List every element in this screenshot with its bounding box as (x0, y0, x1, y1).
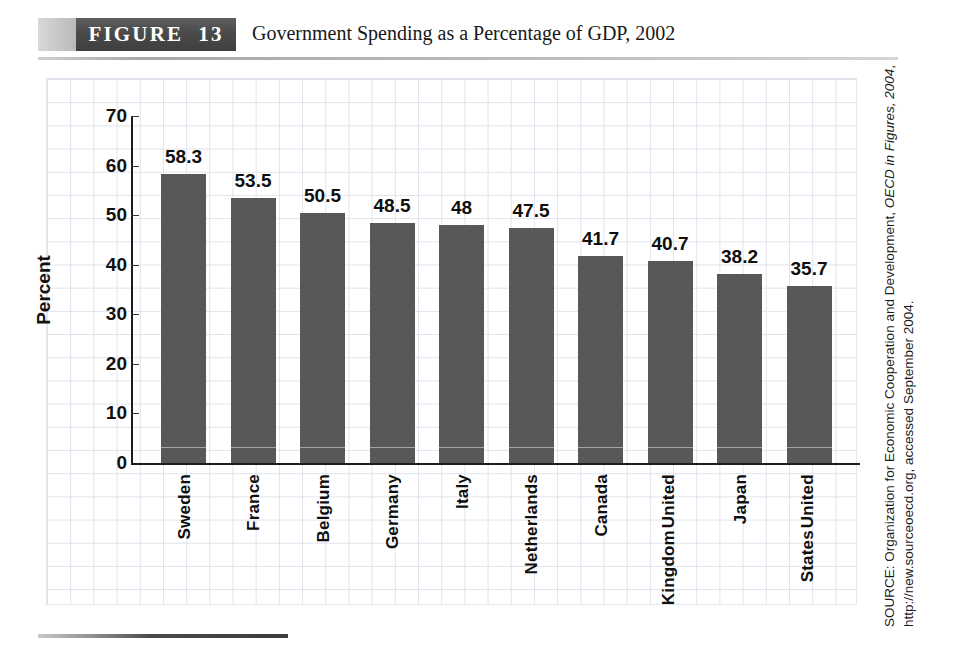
footer-divider (38, 634, 288, 638)
y-axis-tick-labels: 706050403020100 (83, 0, 127, 649)
figure-page: FIGURE 13 Government Spending as a Perce… (0, 0, 962, 649)
y-tick-label-60: 60 (83, 155, 127, 177)
bar-value-label: 35.7 (791, 258, 828, 280)
x-category-label-line: Kingdom (659, 530, 679, 605)
source-prefix: SOURCE: Organization for Economic Cooper… (882, 208, 897, 627)
x-category-label: Germany (383, 474, 403, 549)
bar (648, 261, 693, 463)
x-category-label-line: United (798, 474, 818, 528)
bar-value-label: 41.7 (582, 228, 619, 250)
bar-value-label: 48 (451, 197, 472, 219)
bar (231, 198, 276, 463)
bar-value-label: 40.7 (652, 233, 689, 255)
x-axis-line (131, 463, 860, 465)
y-tick-label-70: 70 (83, 105, 127, 127)
bars-container (131, 116, 857, 463)
header-divider (38, 57, 898, 60)
source-note: SOURCE: Organization for Economic Cooper… (881, 52, 953, 627)
y-tick-label-50: 50 (83, 204, 127, 226)
x-category-label: Canada (592, 474, 612, 537)
y-tick-label-10: 10 (83, 402, 127, 424)
bar-value-label: 38.2 (721, 246, 758, 268)
bar-value-label: 53.5 (235, 170, 272, 192)
y-tick-label-0: 0 (83, 452, 127, 474)
bar-value-label: 58.3 (165, 146, 202, 168)
x-category-label-line: States (798, 530, 818, 582)
y-tick-label-40: 40 (83, 254, 127, 276)
y-tick-label-20: 20 (83, 353, 127, 375)
x-category-label: UnitedKingdom (659, 474, 679, 605)
x-category-label: Netherlands (522, 474, 542, 574)
bar (439, 225, 484, 463)
bar (161, 174, 206, 463)
bar (787, 286, 832, 463)
x-category-label: Sweden (175, 474, 195, 539)
x-category-label: Italy (453, 474, 473, 509)
bar (717, 274, 762, 463)
bar (578, 256, 623, 463)
figure-header: FIGURE 13 Government Spending as a Perce… (38, 18, 898, 51)
source-italic-title: OECD in Figures, 2004 (882, 69, 897, 209)
bar-value-label: 47.5 (513, 200, 550, 222)
y-tick-label-30: 30 (83, 303, 127, 325)
x-category-label-line: United (659, 474, 679, 528)
x-category-label: Belgium (314, 474, 334, 542)
page-title: Government Spending as a Percentage of G… (252, 22, 675, 45)
bar-value-label: 50.5 (304, 185, 341, 207)
x-category-label: UnitedStates (798, 474, 818, 582)
y-axis-title: Percent (33, 255, 55, 325)
banner-light-block (38, 18, 76, 51)
bar (509, 228, 554, 463)
bar (300, 213, 345, 463)
bar (370, 223, 415, 463)
x-category-label: France (244, 474, 264, 531)
bar-value-label: 48.5 (374, 195, 411, 217)
x-category-label: Japan (731, 474, 751, 524)
